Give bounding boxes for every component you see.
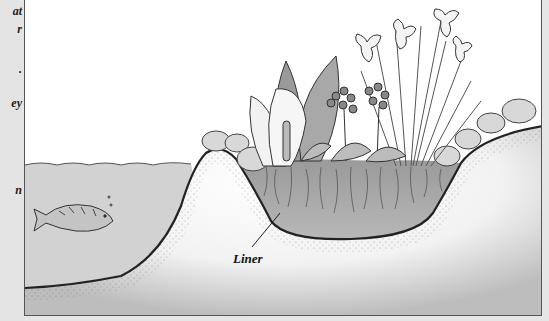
text-fragment: r [17,22,22,37]
text-fragment: at [13,4,22,19]
liner-label: Liner [233,251,263,267]
illustration-frame: Liner [24,0,542,316]
text-column-cropped: at r . ey n [0,0,24,321]
pond-illustration [25,0,542,316]
plants [250,9,481,166]
spadix [283,121,290,161]
text-fragment: ey [11,96,22,111]
iris-flowers [356,9,472,62]
text-fragment: . [19,62,22,77]
text-fragment: n [15,183,22,198]
